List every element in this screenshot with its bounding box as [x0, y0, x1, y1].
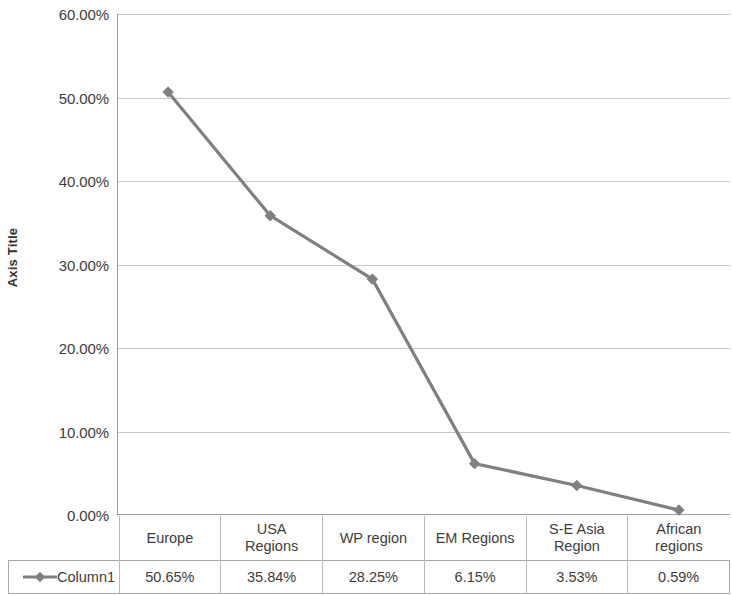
data-table-legend-header-spacer [9, 516, 120, 561]
category-label-line: EM Regions [425, 530, 526, 547]
data-point-marker [572, 480, 582, 490]
y-tick-label: 30.00% [17, 256, 117, 273]
data-table-value-cell: 28.25% [323, 561, 425, 594]
legend-line-marker-icon [23, 570, 57, 584]
data-table-category-row: EuropeUSARegionsWP regionEM RegionsS-E A… [9, 516, 730, 561]
legend-entry-Column1[interactable]: Column1 [9, 561, 120, 594]
y-axis-tick-labels: 0.00%10.00%20.00%30.00%40.00%50.00%60.00… [10, 0, 117, 515]
data-table-value-cell: 6.15% [424, 561, 526, 594]
data-table-value-cell: 50.65% [119, 561, 221, 594]
category-label-line: Europe [120, 530, 221, 547]
category-label-line: S-E Asia [527, 521, 628, 538]
data-table-value-cell: 0.59% [628, 561, 730, 594]
plot-area [117, 14, 730, 515]
data-table-value-cell: 35.84% [221, 561, 323, 594]
category-label-line: WP region [323, 530, 424, 547]
data-table-category-cell: WP region [323, 516, 425, 561]
series-line-Column1 [117, 14, 730, 515]
data-table-category-cell: Africanregions [628, 516, 730, 561]
series-polyline [168, 92, 679, 510]
data-table-category-cell: Europe [119, 516, 221, 561]
y-tick-label: 20.00% [17, 340, 117, 357]
data-table-category-cell: EM Regions [424, 516, 526, 561]
category-label-line: African [628, 521, 729, 538]
category-label-line: regions [628, 538, 729, 555]
data-table-category-cell: USARegions [221, 516, 323, 561]
y-tick-label: 50.00% [17, 89, 117, 106]
data-point-marker [674, 505, 684, 515]
line-chart-with-data-table: Axis Title 0.00%10.00%20.00%30.00%40.00%… [0, 0, 732, 595]
data-table-value-row: Column150.65%35.84%28.25%6.15%3.53%0.59% [9, 561, 730, 594]
category-label-line: Region [527, 538, 628, 555]
category-label-line: USA [221, 521, 322, 538]
data-table-category-cell: S-E AsiaRegion [526, 516, 628, 561]
data-table-value-cell: 3.53% [526, 561, 628, 594]
y-tick-label: 40.00% [17, 173, 117, 190]
data-table: EuropeUSARegionsWP regionEM RegionsS-E A… [8, 516, 730, 594]
y-tick-label: 60.00% [17, 6, 117, 23]
category-label-line: Regions [221, 538, 322, 555]
legend-series-label: Column1 [57, 569, 115, 586]
y-tick-label: 10.00% [17, 423, 117, 440]
